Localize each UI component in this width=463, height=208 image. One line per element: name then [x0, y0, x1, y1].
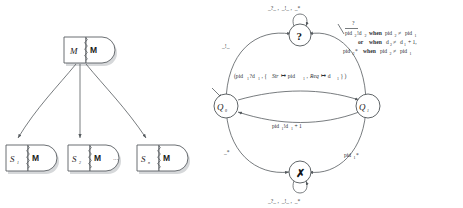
- s2-port-label: M: [94, 153, 101, 163]
- svg-text:} ): } ): [339, 73, 346, 80]
- svg-text:pid: pid: [400, 48, 407, 54]
- svg-text:2: 2: [390, 52, 392, 56]
- edge-q0-to-reject: [226, 104, 289, 172]
- svg-text:d: d: [386, 39, 389, 45]
- sn-state-sub: n: [148, 161, 150, 165]
- svg-text:≠: ≠: [393, 48, 396, 54]
- root-state-label: M: [69, 46, 78, 56]
- selfloop-top-label: _?_ , _!_ , _*: [267, 5, 301, 11]
- state-reject-glyph: ✗: [296, 167, 305, 179]
- svg-text:pid: pid: [343, 48, 350, 54]
- svg-text:pid: pid: [405, 30, 412, 36]
- svg-text:when: when: [369, 30, 383, 36]
- state-machine-diagram: Q 0 Q 1 ? ✗ _?_ , _!_ , _* _?_ , _!_ , _…: [210, 0, 463, 208]
- root-port-label: M: [90, 45, 97, 55]
- sn-port-label: M: [163, 153, 170, 163]
- state-q0-label: Q: [217, 102, 224, 112]
- svg-text:*: *: [355, 48, 358, 54]
- sn-state-label: S: [141, 154, 146, 164]
- state-q1-sub: 1: [367, 109, 369, 113]
- svg-text:Req: Req: [309, 73, 319, 79]
- svg-text:pid: pid: [345, 30, 352, 36]
- guard-overline-marker: ?: [352, 20, 355, 26]
- s2-state-sub: 2: [79, 161, 81, 165]
- selfloop-bottom-label: _?_ , _!_ , _*: [267, 198, 301, 204]
- svg-text:+ 1,: + 1,: [407, 39, 418, 45]
- root-module-node[interactable]: M M: [64, 37, 117, 66]
- svg-text:, {: , {: [260, 73, 268, 80]
- component-hierarchy-diagram: M M S 1 M S: [0, 0, 215, 208]
- svg-text:,: ,: [305, 73, 309, 79]
- svg-text:when: when: [363, 48, 377, 54]
- guard-line-2: or when d 2 ≠ d 1 + 1,: [358, 39, 417, 47]
- edge-root-to-sn: [86, 64, 146, 138]
- edge-q0-to-unknown: [226, 33, 291, 104]
- svg-text:pid: pid: [385, 30, 392, 36]
- svg-text:when: when: [369, 39, 383, 45]
- ellipsis-label: ···: [113, 157, 119, 163]
- figure-page: M M S 1 M S: [0, 0, 463, 208]
- child-module-node-s1[interactable]: S 1 M: [6, 145, 59, 174]
- svg-text:(pid: (pid: [234, 73, 243, 80]
- guard-pointer-line: [338, 24, 344, 34]
- edge-root-to-s1: [18, 64, 76, 138]
- state-unknown[interactable]: ?: [289, 24, 311, 46]
- edge-q0-to-q1: [238, 91, 359, 100]
- state-q0-sub: 0: [225, 109, 227, 113]
- svg-text:≠: ≠: [398, 30, 401, 36]
- state-q1-label: Q: [359, 102, 366, 112]
- guard-condition-block: ? pid 2 !d 2 when pid 2 ≠ pid 1: [338, 20, 417, 56]
- svg-text:↦ d: ↦ d: [320, 73, 331, 79]
- edge-q1-to-q0: [238, 112, 359, 123]
- hierarchy-svg: M M S 1 M S: [0, 0, 215, 208]
- svg-text:?d: ?d: [250, 73, 255, 79]
- state-unknown-glyph: ?: [297, 30, 303, 42]
- s1-state-sub: 1: [17, 161, 19, 165]
- state-q1[interactable]: Q 1: [356, 94, 380, 118]
- svg-text:↦ pid: ↦ pid: [280, 73, 295, 79]
- state-machine-svg: Q 0 Q 1 ? ✗ _?_ , _!_ , _* _?_ , _!_ , _…: [210, 0, 463, 208]
- svg-text:pid: pid: [272, 123, 279, 129]
- edge-q1-q0-label: pid 1 !d 1 + 1: [272, 123, 302, 131]
- svg-text:!d: !d: [357, 30, 362, 36]
- svg-text:+ 1: + 1: [293, 123, 302, 129]
- guard-line-3: pid 2 * when pid 2 ≠ pid 1: [343, 48, 412, 56]
- svg-text:Str: Str: [272, 73, 279, 79]
- child-module-node-sn[interactable]: S n M: [137, 145, 190, 174]
- svg-text:2: 2: [395, 34, 397, 38]
- svg-text:2: 2: [390, 43, 392, 47]
- svg-text:!d: !d: [284, 123, 289, 129]
- svg-text:1: 1: [415, 34, 417, 38]
- svg-text:pid: pid: [344, 152, 351, 158]
- s1-state-label: S: [10, 154, 15, 164]
- svg-text:or: or: [358, 39, 364, 45]
- svg-text:1: 1: [410, 52, 412, 56]
- edge-q1-to-reject: [309, 104, 366, 172]
- svg-text:≠: ≠: [393, 39, 396, 45]
- edge-q0-reject-label: _*: [223, 149, 230, 155]
- svg-text:pid: pid: [380, 48, 387, 54]
- s1-port-label: M: [32, 153, 39, 163]
- guard-line-1: pid 2 !d 2 when pid 2 ≠ pid 1: [345, 29, 417, 38]
- state-q0[interactable]: Q 0: [214, 94, 238, 118]
- edge-q0-q1-label: (pid 1 ?d 1 , { Str ↦ pid 1 , Req ↦ d 1 …: [234, 73, 346, 81]
- state-reject[interactable]: ✗: [289, 161, 311, 183]
- s2-state-label: S: [72, 154, 77, 164]
- svg-text:d: d: [400, 39, 403, 45]
- edge-q0-unknown-label: _!_: [221, 43, 230, 49]
- edge-q1-reject-tail: *: [356, 152, 359, 158]
- svg-text:2: 2: [365, 34, 367, 38]
